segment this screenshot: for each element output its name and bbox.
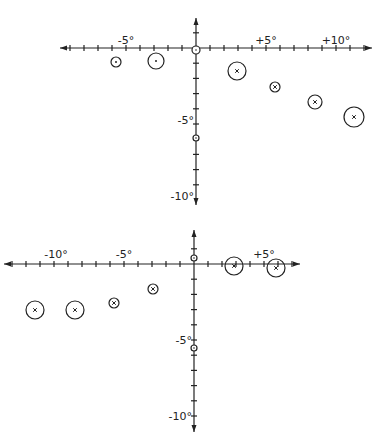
- arrow-right-icon: [365, 46, 372, 51]
- top-plot: -5°+5°+10°-5°-10°: [60, 18, 372, 205]
- y-axis-label: -10°: [171, 190, 194, 203]
- axis-marker-dot: [195, 137, 197, 139]
- dot-mark-icon: [115, 61, 117, 63]
- arrow-down-icon: [192, 425, 197, 432]
- arrow-down-icon: [194, 198, 199, 205]
- y-axis-label: -5°: [176, 334, 192, 347]
- dot-mark-icon: [155, 60, 157, 62]
- diagram-canvas: -5°+5°+10°-5°-10° -10°-5°+5°-5°-10°: [0, 0, 379, 448]
- x-axis-label: -5°: [118, 34, 134, 47]
- x-axis-label: +10°: [322, 34, 351, 47]
- arrow-left-icon: [60, 46, 67, 51]
- arrow-up-icon: [194, 18, 199, 25]
- bottom-plot: -10°-5°+5°-5°-10°: [4, 230, 300, 432]
- arrow-up-icon: [192, 230, 197, 237]
- axis-marker-dot: [193, 257, 195, 259]
- arrow-right-icon: [293, 262, 300, 267]
- y-axis-label: -10°: [169, 410, 192, 423]
- x-axis-label: +5°: [253, 248, 275, 261]
- axis-marker-dot: [193, 347, 195, 349]
- x-axis-label: -5°: [116, 248, 132, 261]
- arrow-left-icon: [4, 262, 11, 267]
- y-axis-label: -5°: [178, 114, 194, 127]
- x-axis-label: -10°: [44, 248, 67, 261]
- axis-marker-dot: [195, 49, 197, 51]
- x-axis-label: +5°: [255, 34, 277, 47]
